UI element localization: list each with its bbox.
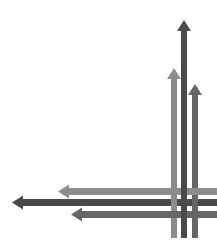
crossing-arrows-diagram: [0, 0, 217, 242]
